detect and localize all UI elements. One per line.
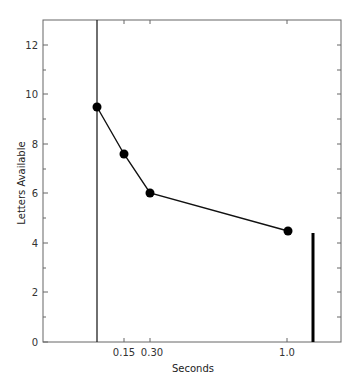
svg-text:0: 0 xyxy=(32,337,38,348)
data-point xyxy=(284,227,293,236)
series-markers xyxy=(93,103,293,236)
svg-text:0.30: 0.30 xyxy=(141,347,163,358)
svg-text:12: 12 xyxy=(25,40,38,51)
svg-text:0.15: 0.15 xyxy=(113,347,135,358)
data-point xyxy=(146,189,155,198)
y-axis-label: Letters Available xyxy=(16,141,27,224)
svg-text:1.0: 1.0 xyxy=(279,347,295,358)
x-tick-labels: 0.15 0.30 1.0 xyxy=(113,347,295,358)
x-axis-ticks xyxy=(124,20,287,342)
data-point xyxy=(120,150,129,159)
svg-text:10: 10 xyxy=(25,89,38,100)
svg-text:8: 8 xyxy=(32,139,38,150)
svg-text:2: 2 xyxy=(32,287,38,298)
y-axis-ticks xyxy=(43,45,341,342)
plot-frame xyxy=(43,20,341,342)
y-tick-labels: 0 2 4 6 8 10 12 xyxy=(25,40,38,348)
x-axis-label: Seconds xyxy=(172,363,214,374)
series-line xyxy=(97,107,288,231)
chart-svg: 0 2 4 6 8 10 12 0.15 0.30 1.0 Seconds Le… xyxy=(0,0,357,391)
svg-text:6: 6 xyxy=(32,188,38,199)
data-point xyxy=(93,103,102,112)
svg-text:4: 4 xyxy=(32,238,38,249)
